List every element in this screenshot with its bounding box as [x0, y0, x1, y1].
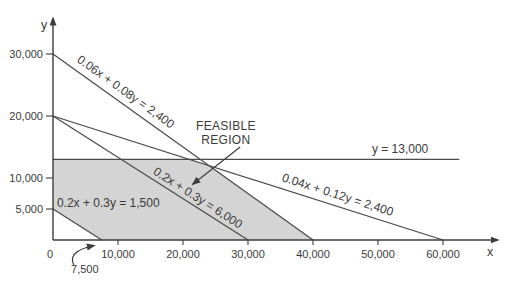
x-tick-label-50000: 50,000	[361, 248, 395, 260]
feasible-region-label: FEASIBLEREGION	[196, 119, 256, 147]
x-tick-label-10000: 10,000	[101, 248, 135, 260]
x-tick-label-60000: 60,000	[426, 248, 460, 260]
y-tick-label-10000: 10,000	[9, 172, 43, 184]
y-tick-label-20000: 20,000	[9, 110, 43, 122]
lp-feasible-region-chart: 0.06x + 0.08y = 2,4000.2x + 0.3y = 6,000…	[0, 0, 513, 286]
y-tick-label-5000: 5,000	[15, 203, 43, 215]
constraint-line-label-2: 0.04x + 0.12y = 2,400	[280, 171, 395, 220]
y-tick-label-30000: 30,000	[9, 48, 43, 60]
constraint-line-label-0: 0.06x + 0.08y = 2,400	[75, 52, 178, 131]
feasible-region-label-line1: FEASIBLE	[196, 119, 256, 133]
x-tick-label-40000: 40,000	[296, 248, 330, 260]
x-tick-label-20000: 20,000	[166, 248, 200, 260]
constraint-line-label-3: y = 13,000	[372, 142, 429, 156]
x-axis-label: x	[487, 245, 494, 259]
callout-label-0: 7,500	[71, 263, 99, 275]
feasible-region-label-line2: REGION	[201, 133, 250, 147]
plot-svg: 0.06x + 0.08y = 2,4000.2x + 0.3y = 6,000…	[0, 0, 513, 286]
x-tick-label-0: 0	[47, 248, 53, 260]
y-axis-label: y	[41, 18, 48, 32]
x-tick-label-30000: 30,000	[231, 248, 265, 260]
constraint-line-label-4: 0.2x + 0.3y = 1,500	[57, 196, 160, 210]
